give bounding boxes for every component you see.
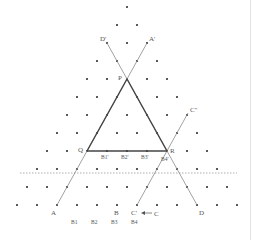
triangle-side-RP [127, 79, 167, 151]
lattice-dot [26, 186, 28, 188]
label-q: Q [78, 146, 83, 154]
lattice-dot [16, 204, 18, 206]
lattice-dot [36, 204, 38, 206]
bottom-label: B4 [131, 219, 138, 225]
lattice-dot [66, 114, 68, 116]
bottom-label: B2 [91, 219, 98, 225]
lattice-dot [116, 168, 118, 170]
lattice-dot [106, 186, 108, 188]
bottom-label: B3 [111, 219, 118, 225]
lattice-dot [156, 60, 158, 62]
lattice-dot [126, 186, 128, 188]
lattice-dot [126, 6, 128, 8]
lattice-dot [76, 132, 78, 134]
arrow-left-icon [141, 211, 145, 215]
segment-label: B1' [101, 154, 108, 160]
label-d-prime: D' [100, 35, 106, 43]
lattice-dot [86, 114, 88, 116]
label-d: D [199, 209, 204, 217]
lattice-dot [96, 60, 98, 62]
lattice-diagram: PQRAA'D'DBC'CC''B1'B2'B3'B4'B1B2B3B4 [0, 0, 254, 240]
lattice-dot [116, 24, 118, 26]
lattice-dot [236, 204, 238, 206]
diagram-canvas: PQRAA'D'DBC'CC''B1'B2'B3'B4'B1B2B3B4 [0, 0, 254, 240]
lattice-dot [226, 186, 228, 188]
lattice-dot [176, 204, 178, 206]
lattice-dot [166, 78, 168, 80]
lattice-dots [16, 6, 238, 206]
lattice-dot [96, 168, 98, 170]
lattice-dot [166, 114, 168, 116]
lattice-dot [56, 132, 58, 134]
lattice-dot [86, 186, 88, 188]
lattice-dot [46, 150, 48, 152]
segment-label: B4' [161, 156, 168, 162]
segment-label: B2' [121, 154, 128, 160]
lattice-dot [166, 186, 168, 188]
label-c-dprime: C'' [190, 106, 197, 114]
lattice-dot [96, 96, 98, 98]
lattice-dot [156, 204, 158, 206]
lattice-dot [196, 168, 198, 170]
lattice-dot [106, 78, 108, 80]
lattice-dot [206, 186, 208, 188]
label-a: A [51, 209, 56, 217]
label-b: B [114, 209, 119, 217]
lattice-dot [176, 96, 178, 98]
lattice-dot [56, 168, 58, 170]
label-p: P [118, 74, 122, 82]
lattice-dot [86, 78, 88, 80]
lattice-dot [46, 186, 48, 188]
label-c-prime: C' [131, 209, 137, 217]
lattice-dot [136, 132, 138, 134]
lattice-dot [36, 168, 38, 170]
label-r: R [170, 147, 175, 155]
bottom-label: B1 [71, 219, 78, 225]
lattice-dot [146, 78, 148, 80]
label-c: C [154, 210, 159, 218]
lattice-dot [76, 96, 78, 98]
lattice-dot [116, 132, 118, 134]
lattice-dot [126, 114, 128, 116]
point-labels: PQRAA'D'DBC'CC''B1'B2'B3'B4'B1B2B3B4 [51, 35, 204, 225]
lattice-dot [96, 204, 98, 206]
triangle-side-PQ [87, 79, 127, 151]
lattice-dot [136, 168, 138, 170]
lattice-dot [156, 96, 158, 98]
lattice-dot [216, 168, 218, 170]
segment-label: B3' [141, 154, 148, 160]
lattice-dot [216, 204, 218, 206]
lattice-dot [206, 150, 208, 152]
lattice-dot [136, 24, 138, 26]
lattice-dot [116, 204, 118, 206]
lattice-dot [76, 204, 78, 206]
lattice-dot [66, 150, 68, 152]
construction-lines [20, 43, 237, 215]
lattice-dot [196, 132, 198, 134]
lattice-dot [186, 150, 188, 152]
lattice-dot [126, 42, 128, 44]
label-a-prime: A' [149, 35, 155, 43]
page-edge-divider [250, 0, 251, 240]
